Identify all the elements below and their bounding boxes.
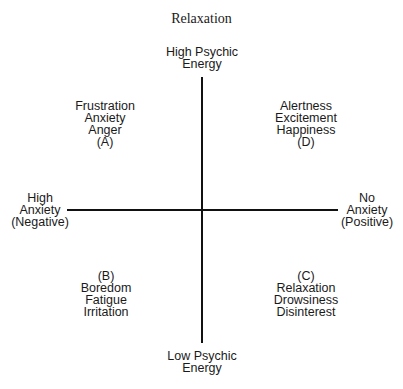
diagram-title: Relaxation: [0, 11, 403, 27]
axis-label-right-line: (Positive): [341, 216, 393, 228]
axis-label-left: High Anxiety (Negative): [11, 192, 69, 228]
quadrant-c: (C) Relaxation Drowsiness Disinterest: [274, 270, 339, 318]
quadrant-b: (B) Boredom Fatigue Irritation: [81, 270, 132, 318]
quadrant-d: Alertness Excitement Happiness (D): [275, 100, 337, 148]
axis-label-right: No Anxiety (Positive): [341, 192, 393, 228]
quadrant-d-line: (D): [275, 136, 337, 148]
quadrant-a: Frustration Anxiety Anger (A): [75, 100, 135, 148]
quadrant-a-line: (A): [75, 136, 135, 148]
axis-label-bottom: Low Psychic Energy: [167, 350, 236, 374]
axis-label-top-line: Energy: [166, 58, 238, 70]
horizontal-axis-line: [67, 209, 338, 211]
quadrant-b-line: Irritation: [81, 306, 132, 318]
axis-label-left-line: (Negative): [11, 216, 69, 228]
axis-label-bottom-line: Energy: [167, 362, 236, 374]
axis-label-top: High Psychic Energy: [166, 46, 238, 70]
quadrant-c-line: Disinterest: [274, 306, 339, 318]
